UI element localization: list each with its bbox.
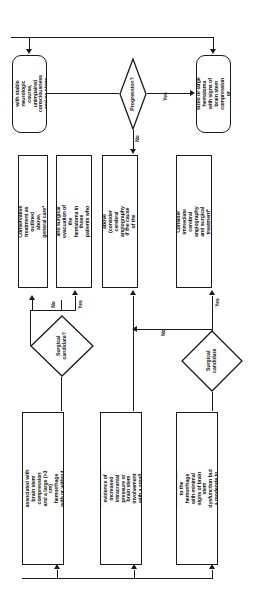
arrow-left-yes-icon — [72, 290, 78, 295]
flowchart-canvas: Very small or small hematoma with stable… — [0, 0, 260, 609]
outcome-conservative-consider-text: Conservative treatment as outlined above… — [102, 205, 138, 237]
decision-surgical-candidate-left[interactable]: Surgical candidate? — [30, 315, 94, 377]
edge-label-right-yes: Yes — [213, 300, 221, 305]
connector-focal-to-right-diamond — [212, 392, 213, 411]
presentation-small-hemorrhage-label: With or without neurologic deficit with … — [100, 469, 142, 509]
connector-bottom-to-profound — [57, 570, 58, 579]
connector-left-no-horz — [30, 310, 62, 311]
outcome-conservative-consider-angiography[interactable]: Conservative treatment as outlined above… — [102, 155, 138, 288]
decision-progression[interactable]: Progression? — [119, 58, 147, 130]
outcome-immediate-angiography-surgery-label: Consider immediate cerebral angiography … — [176, 205, 212, 239]
connector-verysmall-to-progression — [47, 93, 119, 94]
outcome-angiography-evacuation[interactable]: Consider cerebral angiography and surgic… — [56, 155, 92, 288]
presentation-small-hemorrhage[interactable]: With or without neurologic deficit with … — [100, 412, 142, 565]
connector-left-no-vert — [30, 310, 31, 346]
presentation-profound-deficit[interactable]: Profound neurologic deficit associated w… — [22, 412, 64, 565]
arrow-bottom-to-focal-icon — [209, 564, 215, 569]
presentation-profound-deficit-label: Profound neurologic deficit associated w… — [22, 469, 64, 509]
outcome-conservative-general[interactable]: Conservative treatment as outlined above… — [18, 155, 48, 288]
state-moderate-large-hematoma[interactable]: Moderate-sized or large hematoma with si… — [196, 55, 231, 133]
bottom-bus-line — [22, 578, 213, 579]
arrow-top-to-verysmall-icon — [26, 49, 32, 54]
connector-profound-to-left-diamond — [61, 377, 62, 411]
outcome-conservative-consider-angiography-label: Conservative treatment as outlined above… — [102, 205, 138, 239]
decision-surgical-candidate-right-shape-icon — [181, 330, 243, 392]
presentation-small-part1: With or without neurologic deficit with … — [100, 469, 142, 507]
arrow-progression-no-icon — [130, 149, 136, 154]
connector-left-yes-horz — [62, 310, 76, 311]
outcome-angiography-evacuation-label: Consider cerebral angiography and surgic… — [56, 205, 92, 239]
decision-surgical-candidate-left-shape-icon — [30, 315, 94, 377]
connector-bottom-to-focal — [212, 570, 213, 579]
connector-right-no-horz — [136, 329, 213, 330]
edge-label-right-no: No — [160, 330, 166, 335]
presentation-focal-deficit-label: A focal neurologic deficit referable to … — [176, 469, 218, 509]
decision-progression-shape-icon — [119, 58, 147, 130]
presentation-focal-part1: A focal neurologic deficit referable to … — [176, 469, 218, 507]
edge-label-left-yes: Yes — [76, 302, 84, 307]
state-moderate-large-hematoma-label: Moderate-sized or large hematoma with si… — [196, 78, 231, 111]
decision-surgical-candidate-right[interactable]: Surgical candidate — [181, 330, 243, 392]
arrow-bottom-to-profound-icon — [54, 564, 60, 569]
arrow-right-yes-icon — [209, 290, 215, 295]
outcome-conservative-general-label: Conservative treatment as outlined above… — [18, 205, 48, 237]
state-very-small-hematoma[interactable]: Very small or small hematoma with stable… — [12, 55, 47, 133]
arrow-bottom-to-small-icon — [131, 564, 137, 569]
connector-bottom-to-small — [134, 570, 135, 579]
connector-left-no-riser — [32, 299, 33, 311]
outcome-immediate-angiography-surgery[interactable]: Consider immediate cerebral angiography … — [176, 155, 212, 288]
edge-label-progression-yes: Yes — [161, 94, 169, 99]
state-very-small-hematoma-label: Very small or small hematoma with stable… — [12, 76, 47, 113]
edge-label-progression-no: No — [134, 136, 140, 141]
arrow-small-to-conservative-icon — [130, 290, 136, 295]
arrow-top-to-moderate-icon — [210, 49, 216, 54]
top-bus-line — [11, 37, 214, 38]
edge-label-left-no: No — [50, 302, 56, 307]
presentation-focal-deficit[interactable]: A focal neurologic deficit referable to … — [176, 412, 218, 565]
connector-small-to-conservative — [133, 296, 134, 411]
arrow-progression-yes-icon — [190, 90, 195, 96]
